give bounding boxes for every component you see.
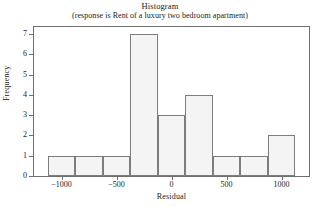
y-axis-tick-label: 6 bbox=[23, 50, 27, 58]
y-axis-tick-label: 5 bbox=[23, 71, 27, 79]
histogram-bar bbox=[48, 156, 76, 176]
y-axis-tick-label: 4 bbox=[23, 91, 27, 99]
histogram-bar bbox=[240, 156, 268, 176]
y-axis-tick bbox=[29, 34, 34, 35]
x-axis-tick-label: 500 bbox=[221, 181, 233, 189]
y-axis-tick-label: 3 bbox=[23, 111, 27, 119]
y-axis-tick-label: 1 bbox=[23, 152, 27, 160]
x-axis-title: Residual bbox=[33, 192, 310, 201]
x-axis-tick-label: 0 bbox=[170, 181, 174, 189]
y-axis-tick bbox=[29, 156, 34, 157]
chart-title: Histogram bbox=[0, 2, 320, 11]
plot-area: 01234567 −1000−50005001000 bbox=[34, 27, 309, 176]
histogram-figure: Histogram (response is Rent of a luxury … bbox=[0, 0, 320, 207]
chart-subtitle: (response is Rent of a luxury two bedroo… bbox=[0, 12, 320, 20]
y-axis-tick bbox=[29, 135, 34, 136]
x-axis-tick-label: 1000 bbox=[274, 181, 290, 189]
y-axis-tick bbox=[29, 115, 34, 116]
x-axis-tick-label: −500 bbox=[108, 181, 125, 189]
chart-title-block: Histogram (response is Rent of a luxury … bbox=[0, 2, 320, 20]
y-axis-tick bbox=[29, 176, 34, 177]
histogram-bar bbox=[75, 156, 103, 176]
y-axis-tick-label: 0 bbox=[23, 172, 27, 180]
y-axis-title: Frequency bbox=[2, 65, 11, 101]
histogram-bar bbox=[158, 115, 186, 176]
y-axis-tick-label: 7 bbox=[23, 30, 27, 38]
histogram-bar bbox=[213, 156, 241, 176]
y-axis-tick bbox=[29, 95, 34, 96]
y-axis-tick-label: 2 bbox=[23, 131, 27, 139]
x-axis-tick-label: −1000 bbox=[51, 181, 72, 189]
y-axis-tick bbox=[29, 54, 34, 55]
histogram-bar bbox=[185, 95, 213, 176]
y-axis-tick bbox=[29, 75, 34, 76]
histogram-bar bbox=[103, 156, 131, 176]
plot-frame: 01234567 −1000−50005001000 bbox=[33, 26, 310, 177]
histogram-bar bbox=[130, 34, 158, 176]
histogram-bar bbox=[268, 135, 296, 176]
